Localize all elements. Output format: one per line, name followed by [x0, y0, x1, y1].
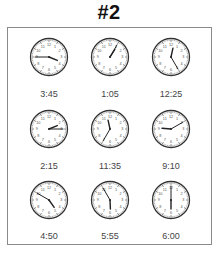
svg-text:12: 12	[47, 115, 51, 119]
hour-hand	[162, 128, 171, 129]
clock-time-label: 5:55	[80, 231, 140, 242]
svg-text:10: 10	[97, 121, 101, 125]
svg-text:10: 10	[97, 192, 101, 196]
clock-face: 121234567891011	[29, 180, 69, 220]
svg-text:11: 11	[102, 117, 106, 121]
svg-text:9: 9	[97, 127, 99, 131]
clock-time-label: 2:15	[19, 161, 79, 172]
svg-text:5: 5	[54, 66, 56, 70]
svg-text:7: 7	[164, 66, 166, 70]
svg-text:3: 3	[121, 55, 123, 59]
svg-text:7: 7	[42, 66, 44, 70]
svg-text:6: 6	[109, 211, 111, 215]
svg-text:2: 2	[120, 49, 122, 53]
svg-text:7: 7	[164, 138, 166, 142]
svg-text:3: 3	[60, 198, 62, 202]
svg-text:7: 7	[103, 209, 105, 213]
svg-text:4: 4	[59, 62, 61, 66]
worksheet-title: #2	[0, 1, 218, 23]
svg-text:4: 4	[59, 134, 61, 138]
svg-text:4: 4	[181, 62, 183, 66]
svg-text:6: 6	[109, 140, 111, 144]
svg-text:2: 2	[181, 49, 183, 53]
svg-text:9: 9	[36, 127, 38, 131]
svg-text:12: 12	[169, 43, 173, 47]
svg-text:1: 1	[115, 188, 117, 192]
svg-text:10: 10	[97, 49, 101, 53]
svg-text:1: 1	[176, 188, 178, 192]
svg-text:12: 12	[47, 186, 51, 190]
svg-text:5: 5	[115, 138, 117, 142]
svg-text:12: 12	[108, 43, 112, 47]
svg-text:6: 6	[170, 140, 172, 144]
svg-text:3: 3	[121, 198, 123, 202]
svg-text:6: 6	[48, 68, 50, 72]
svg-text:10: 10	[158, 192, 162, 196]
svg-text:4: 4	[181, 205, 183, 209]
svg-text:7: 7	[164, 209, 166, 213]
clock-time-label: 9:10	[141, 161, 201, 172]
svg-text:7: 7	[42, 209, 44, 213]
clock-time-label: 11:35	[80, 161, 140, 172]
svg-text:1: 1	[176, 45, 178, 49]
clock-face: 121234567891011	[151, 37, 191, 77]
svg-text:6: 6	[48, 211, 50, 215]
svg-text:6: 6	[170, 68, 172, 72]
svg-text:1: 1	[115, 117, 117, 121]
svg-text:3: 3	[182, 127, 184, 131]
clock-face: 121234567891011	[90, 180, 130, 220]
clock-face: 121234567891011	[90, 109, 130, 149]
svg-text:8: 8	[37, 205, 39, 209]
svg-text:10: 10	[158, 49, 162, 53]
svg-text:12: 12	[47, 43, 51, 47]
svg-text:8: 8	[159, 134, 161, 138]
clock-time-label: 6:00	[141, 231, 201, 242]
svg-text:8: 8	[98, 62, 100, 66]
clock-face: 121234567891011	[151, 109, 191, 149]
svg-text:5: 5	[115, 209, 117, 213]
svg-text:11: 11	[163, 117, 167, 121]
svg-text:10: 10	[158, 121, 162, 125]
svg-text:11: 11	[102, 45, 106, 49]
svg-text:3: 3	[182, 55, 184, 59]
svg-text:9: 9	[158, 55, 160, 59]
svg-text:11: 11	[41, 45, 45, 49]
clock-time-label: 12:25	[141, 89, 201, 100]
svg-text:11: 11	[163, 45, 167, 49]
svg-text:2: 2	[120, 192, 122, 196]
svg-text:8: 8	[159, 62, 161, 66]
svg-text:10: 10	[36, 121, 40, 125]
svg-text:9: 9	[97, 55, 99, 59]
svg-text:5: 5	[176, 209, 178, 213]
svg-text:4: 4	[120, 134, 122, 138]
svg-text:5: 5	[176, 138, 178, 142]
svg-text:5: 5	[54, 209, 56, 213]
svg-text:2: 2	[59, 121, 61, 125]
clock-face: 121234567891011	[29, 37, 69, 77]
svg-text:6: 6	[109, 68, 111, 72]
svg-text:8: 8	[98, 205, 100, 209]
svg-text:4: 4	[181, 134, 183, 138]
svg-text:2: 2	[59, 49, 61, 53]
svg-text:11: 11	[41, 117, 45, 121]
svg-text:9: 9	[158, 127, 160, 131]
svg-text:1: 1	[54, 117, 56, 121]
svg-text:8: 8	[37, 134, 39, 138]
svg-text:4: 4	[120, 62, 122, 66]
clock-time-label: 3:45	[19, 89, 79, 100]
svg-text:3: 3	[60, 55, 62, 59]
svg-text:8: 8	[159, 205, 161, 209]
svg-text:10: 10	[36, 49, 40, 53]
svg-text:11: 11	[163, 188, 167, 192]
svg-text:9: 9	[158, 198, 160, 202]
svg-text:7: 7	[42, 138, 44, 142]
svg-text:5: 5	[54, 138, 56, 142]
svg-text:12: 12	[108, 115, 112, 119]
svg-text:8: 8	[37, 62, 39, 66]
svg-text:3: 3	[182, 198, 184, 202]
clock-face: 121234567891011	[90, 37, 130, 77]
svg-text:9: 9	[97, 198, 99, 202]
svg-text:1: 1	[54, 188, 56, 192]
svg-text:2: 2	[59, 192, 61, 196]
svg-text:4: 4	[120, 205, 122, 209]
